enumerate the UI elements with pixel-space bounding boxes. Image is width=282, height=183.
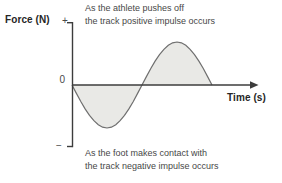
y-tick-minus-label: − [54, 141, 64, 151]
y-axis-label: Force (N) [5, 14, 50, 25]
y-tick-zero-label: 0 [50, 75, 65, 85]
y-tick-plus-label: + [60, 16, 70, 26]
annotation-line: the track negative impulse occurs [85, 160, 219, 173]
axes [67, 22, 251, 147]
force-time-figure: Force (N) + 0 − Time (s) As the athlete … [0, 0, 282, 183]
annotation-line: As the foot makes contact with [85, 147, 219, 160]
x-axis-arrowhead [250, 81, 259, 88]
annotation-line: the track positive impulse occurs [85, 15, 215, 28]
positive-impulse-annotation: As the athlete pushes off the track posi… [85, 2, 215, 28]
annotation-line: As the athlete pushes off [85, 2, 215, 15]
x-axis-label: Time (s) [227, 92, 266, 103]
negative-impulse-annotation: As the foot makes contact with the track… [85, 147, 219, 173]
